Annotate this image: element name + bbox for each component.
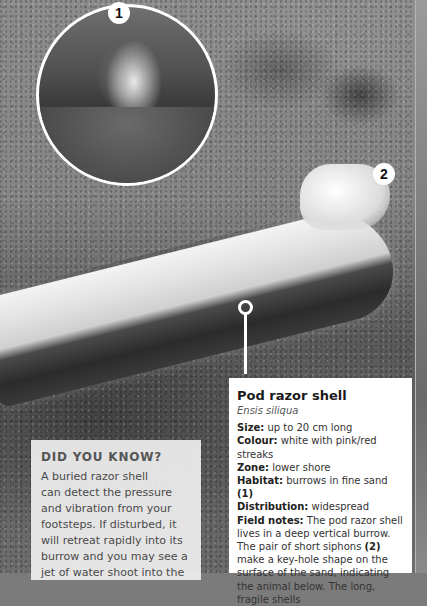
species-info-box: Pod razor shell Ensis siliqua Size: up t… xyxy=(229,378,412,573)
dyk-line: can detect the pressure xyxy=(41,485,193,501)
field-notes-row: Field notes: The pod razor shell lives i… xyxy=(237,514,404,606)
dyk-line: and vibration from your xyxy=(41,501,193,517)
burrow-inset-photo xyxy=(36,4,218,186)
zone-row: Zone: lower shore xyxy=(237,461,404,474)
did-you-know-text: A buried razor shell can detect the pres… xyxy=(41,469,193,581)
callout-pointer-ring xyxy=(238,300,253,315)
callout-pointer-line xyxy=(244,314,247,374)
marker-2-badge: 2 xyxy=(373,163,395,185)
size-row: Size: up to 20 cm long xyxy=(237,421,404,434)
did-you-know-box: DID YOU KNOW? A buried razor shell can d… xyxy=(31,440,201,580)
species-latin-name: Ensis siliqua xyxy=(237,404,404,417)
dyk-line: jet of water shoot into the xyxy=(41,565,193,581)
did-you-know-title: DID YOU KNOW? xyxy=(41,450,193,464)
species-title: Pod razor shell xyxy=(237,388,404,404)
distribution-row: Distribution: widespread xyxy=(237,500,404,513)
page-edge-strip xyxy=(415,0,427,573)
marker-1-badge: 1 xyxy=(108,2,130,24)
dyk-line: A buried razor shell xyxy=(41,469,193,485)
dyk-line: will retreat rapidly into its xyxy=(41,533,193,549)
habitat-row: Habitat: burrows in fine sand (1) xyxy=(237,474,404,500)
dyk-line: footsteps. If disturbed, it xyxy=(41,517,193,533)
colour-row: Colour: white with pink/red streaks xyxy=(237,434,404,460)
inset-sand xyxy=(39,107,215,186)
dyk-line: burrow and you may see a xyxy=(41,549,193,565)
